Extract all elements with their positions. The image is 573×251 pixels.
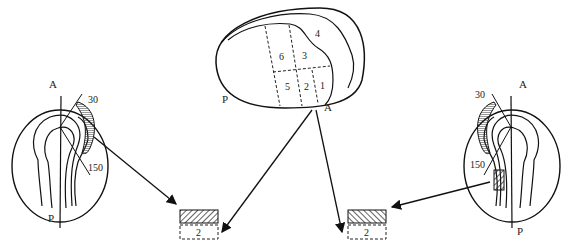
left-axis-p-label: P [48,212,54,224]
cell-3-label: 3 [302,50,307,61]
arrows [94,110,490,232]
right-graft: 2 [348,210,386,239]
center-embryo: 6 3 5 2 1 4 P A [216,8,364,113]
right-axis-p-label: P [517,225,523,237]
anterior-label: A [324,101,332,113]
left-embryo: A P 30 150 [12,78,108,228]
left-graft-label: 2 [196,227,201,238]
cell-6-label: 6 [279,51,284,62]
right-embryo: A P 30 150 [464,78,560,237]
right-angle-30-label: 30 [475,89,485,100]
cell-2-label: 2 [304,81,309,92]
right-axis-a-label: A [519,78,527,90]
posterior-label: P [222,93,228,105]
left-angle-30-label: 30 [88,94,98,105]
embryo-graft-diagram: 6 3 5 2 1 4 P A A P 30 150 A P 30 1 [0,0,573,251]
cell-1-label: 1 [320,80,325,91]
right-graft-label: 2 [364,227,369,238]
cell-5-label: 5 [285,81,290,92]
left-graft: 2 [180,210,218,239]
left-axis-a-label: A [49,78,57,90]
right-angle-150-label: 150 [470,159,485,170]
region-4-label: 4 [315,28,320,39]
left-angle-150-label: 150 [88,162,103,173]
